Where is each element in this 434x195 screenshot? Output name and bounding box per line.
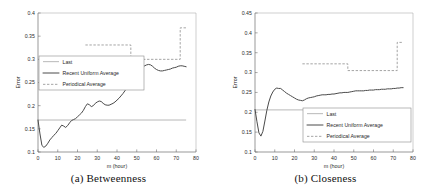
caption-betweenness: (a) Betweenness	[0, 172, 217, 184]
figure-two-panel-error-plots: 0.10.150.20.250.30.350.40102030405060708…	[0, 0, 434, 195]
series-line-periodical-average	[302, 42, 403, 70]
x-tick-label: 40	[114, 155, 120, 161]
x-tick-label: 60	[371, 155, 377, 161]
y-axis-title: Error	[15, 76, 21, 88]
x-tick-label: 10	[55, 155, 61, 161]
y-axis-title: Error	[232, 76, 238, 88]
y-tick-label: 0.2	[245, 109, 252, 115]
legend-label-1: Last	[63, 59, 73, 65]
x-tick-label: 10	[272, 155, 278, 161]
legend-label-3: Periodical Average	[327, 133, 370, 139]
y-tick-label: 0.25	[242, 89, 252, 95]
x-tick-label: 30	[311, 155, 317, 161]
x-axis-title: m (hour)	[107, 163, 128, 169]
x-tick-label: 40	[331, 155, 337, 161]
x-tick-label: 70	[390, 155, 396, 161]
legend-label-1: Last	[327, 111, 337, 117]
x-tick-label: 50	[134, 155, 140, 161]
y-tick-label: 0.3	[28, 56, 35, 62]
x-axis-title: m (hour)	[324, 163, 345, 169]
y-tick-label: 0.4	[28, 10, 35, 16]
y-tick-label: 0.25	[25, 79, 35, 85]
y-tick-label: 0.3	[245, 69, 252, 75]
x-tick-label: 0	[254, 155, 257, 161]
x-tick-label: 70	[173, 155, 179, 161]
chart-closeness-svg: 0.10.150.20.250.30.350.40.45010203040506…	[217, 0, 434, 172]
y-tick-label: 0.1	[28, 149, 35, 155]
chart-betweenness-svg: 0.10.150.20.250.30.350.40102030405060708…	[0, 0, 217, 172]
x-tick-label: 0	[37, 155, 40, 161]
legend-label-2: Recent Uniform Average	[327, 122, 384, 128]
series-line-periodical-average	[85, 28, 186, 60]
y-tick-label: 0.15	[242, 129, 252, 135]
y-tick-label: 0.45	[242, 10, 252, 16]
y-tick-label: 0.2	[28, 103, 35, 109]
legend-label-3: Periodical Average	[63, 81, 106, 87]
y-tick-label: 0.4	[245, 30, 252, 36]
y-tick-label: 0.35	[25, 33, 35, 39]
panel-closeness: 0.10.150.20.250.30.350.40.45010203040506…	[217, 0, 434, 195]
x-tick-label: 30	[94, 155, 100, 161]
panel-betweenness: 0.10.150.20.250.30.350.40102030405060708…	[0, 0, 217, 195]
y-tick-label: 0.15	[25, 126, 35, 132]
x-tick-label: 60	[154, 155, 160, 161]
caption-closeness: (b) Closeness	[217, 172, 434, 184]
x-tick-label: 80	[410, 155, 416, 161]
x-tick-label: 20	[292, 155, 298, 161]
legend-label-2: Recent Uniform Average	[63, 70, 120, 76]
x-tick-label: 20	[75, 155, 81, 161]
legend: LastRecent Uniform AveragePeriodical Ave…	[303, 108, 411, 142]
y-tick-label: 0.1	[245, 149, 252, 155]
y-tick-label: 0.35	[242, 50, 252, 56]
x-tick-label: 80	[193, 155, 199, 161]
legend: LastRecent Uniform AveragePeriodical Ave…	[39, 56, 144, 90]
chart-closeness: 0.10.150.20.250.30.350.40.45010203040506…	[217, 0, 434, 172]
x-tick-label: 50	[351, 155, 357, 161]
chart-betweenness: 0.10.150.20.250.30.350.40102030405060708…	[0, 0, 217, 172]
